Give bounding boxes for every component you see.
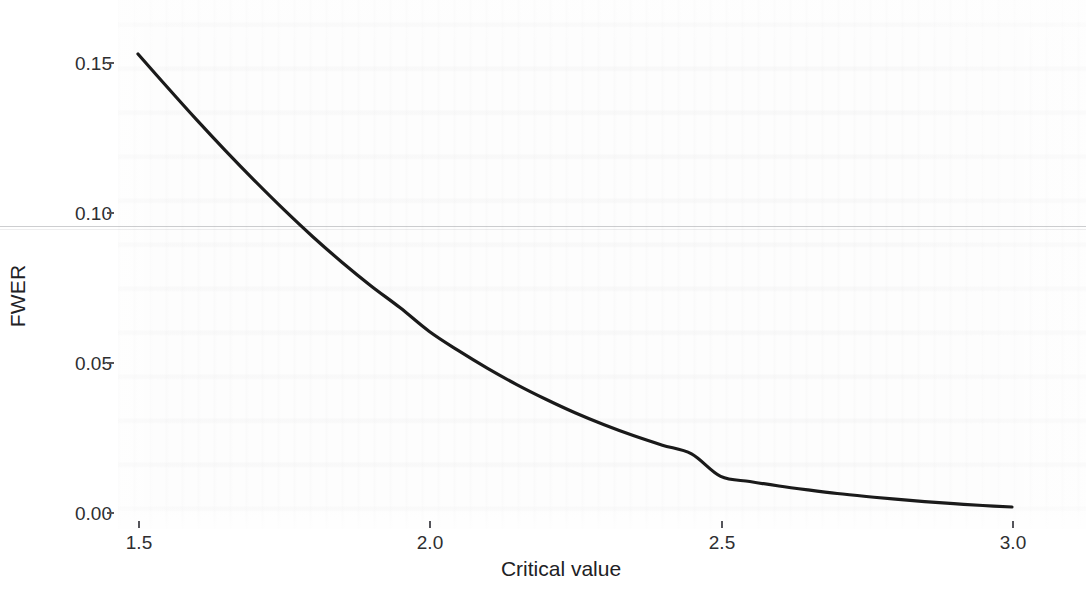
fwer-curve-svg	[118, 18, 1038, 518]
x-axis-title: Critical value	[501, 557, 621, 581]
plot-area	[118, 18, 1038, 518]
fwer-curve-line	[138, 54, 1012, 507]
x-tick-label-0: 1.5	[126, 533, 152, 552]
y-tick-mark-0	[107, 62, 114, 64]
y-axis-title: FWER	[6, 265, 30, 328]
x-tick-label-1: 2.0	[417, 533, 443, 552]
y-tick-mark-2	[107, 362, 114, 364]
y-tick-mark-3	[107, 512, 114, 514]
y-tick-mark-1	[107, 212, 114, 214]
x-tick-mark-2	[721, 521, 723, 528]
x-tick-label-2: 2.5	[709, 533, 735, 552]
x-tick-mark-1	[429, 521, 431, 528]
chart-page: 0.15 0.10 0.05 0.00 1.5 2.0 2.5 3.0 FWER…	[0, 0, 1086, 599]
x-tick-label-3: 3.0	[1000, 533, 1026, 552]
x-tick-mark-3	[1012, 521, 1014, 528]
x-tick-mark-0	[138, 521, 140, 528]
